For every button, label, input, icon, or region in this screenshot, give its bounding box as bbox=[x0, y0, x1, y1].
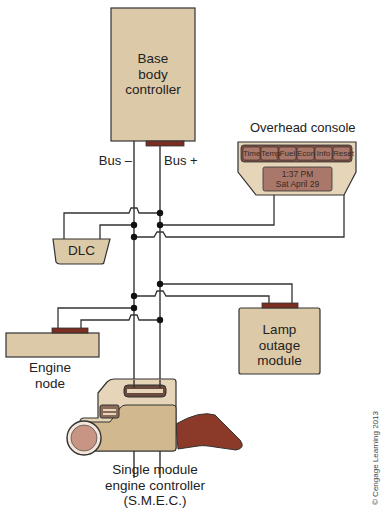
smec-shape bbox=[67, 379, 242, 455]
smec-line2: engine controller bbox=[80, 478, 230, 494]
lamp-outage-line2: outage bbox=[239, 338, 320, 354]
console-button-info: Info bbox=[315, 147, 332, 160]
base-body-controller-line1: Base bbox=[111, 51, 195, 67]
smec-label: Single module engine controller (S.M.E.C… bbox=[80, 462, 230, 509]
console-display-time: 1:37 PM bbox=[263, 169, 332, 179]
console-display: 1:37 PM Sat April 29 bbox=[263, 169, 332, 189]
dlc-wires bbox=[64, 208, 160, 239]
junction-dots bbox=[131, 210, 163, 323]
dlc-label: DLC bbox=[53, 243, 110, 259]
base-body-controller-line2: body bbox=[111, 67, 195, 83]
lamp-outage-line3: module bbox=[239, 353, 320, 369]
console-button-fuel: Fuel bbox=[279, 147, 296, 160]
base-body-controller-line3: controller bbox=[111, 82, 195, 98]
engine-node-wires bbox=[58, 308, 160, 328]
lamp-outage-line1: Lamp bbox=[239, 322, 320, 338]
console-display-date: Sat April 29 bbox=[263, 179, 332, 189]
bus-minus-label: Bus – bbox=[92, 154, 132, 169]
overhead-console-title: Overhead console bbox=[250, 121, 370, 136]
engine-node-label: Engine node bbox=[20, 360, 80, 391]
copyright-notice: © Cengage Learning 2013 bbox=[371, 411, 380, 505]
engine-node-connector bbox=[52, 328, 88, 333]
lamp-outage-module-label: Lamp outage module bbox=[239, 322, 320, 369]
base-body-controller-label: Base body controller bbox=[111, 51, 195, 98]
console-button-econ: Econ bbox=[297, 147, 314, 160]
bus-plus-label: Bus + bbox=[164, 154, 204, 169]
lamp-outage-connector bbox=[262, 303, 298, 308]
console-button-temp: Temp bbox=[261, 147, 278, 160]
console-wires bbox=[134, 195, 344, 237]
smec-line1: Single module bbox=[80, 462, 230, 478]
lamp-outage-wires bbox=[134, 284, 292, 303]
smec-line3: (S.M.E.C.) bbox=[80, 493, 230, 509]
engine-node-line2: node bbox=[20, 376, 80, 392]
console-button-reset: Reset bbox=[333, 147, 350, 160]
engine-node-box bbox=[6, 333, 99, 357]
console-button-time: Time bbox=[243, 147, 260, 160]
base-body-controller-connector bbox=[146, 141, 184, 146]
engine-node-line1: Engine bbox=[20, 360, 80, 376]
